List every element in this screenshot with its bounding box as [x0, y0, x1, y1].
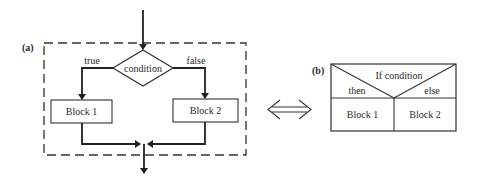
block1-text: Block 1 — [66, 106, 97, 117]
true-label: true — [84, 55, 100, 66]
block2-text-b: Block 2 — [409, 109, 440, 120]
block2-text: Block 2 — [190, 105, 221, 116]
else-label: else — [424, 85, 440, 96]
block1-text-b: Block 1 — [347, 109, 378, 120]
if-condition-text: If condition — [376, 70, 423, 81]
false-label: false — [187, 55, 206, 66]
if-then-else-diagram: (a) condition true false Block 1 Block 2 — [0, 0, 480, 184]
figure-a-label: (a) — [22, 42, 34, 54]
true-branch-arrow-icon — [82, 68, 113, 99]
merge-right-arrow-icon — [148, 122, 205, 144]
equivalence-double-arrow-icon — [268, 100, 311, 119]
structogram-b: (b) If condition then else Block 1 Block… — [312, 64, 456, 131]
merge-left-arrow-icon — [82, 123, 140, 144]
flowchart-a: (a) condition true false Block 1 Block 2 — [22, 10, 246, 173]
then-label: then — [348, 85, 365, 96]
decision-text: condition — [124, 63, 162, 74]
false-branch-arrow-icon — [173, 68, 205, 98]
figure-b-label: (b) — [312, 65, 324, 77]
